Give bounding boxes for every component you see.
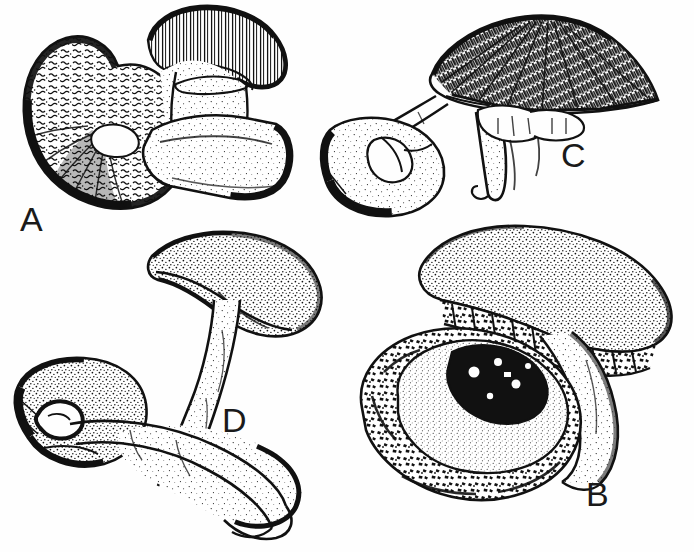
figure-label-d: D xyxy=(222,403,247,437)
figure-label-b: B xyxy=(586,477,609,511)
plate-artwork xyxy=(0,0,694,552)
illustration-plate: A C D B xyxy=(0,0,694,552)
figure-label-a: A xyxy=(20,202,43,236)
figure-label-c: C xyxy=(561,138,586,172)
